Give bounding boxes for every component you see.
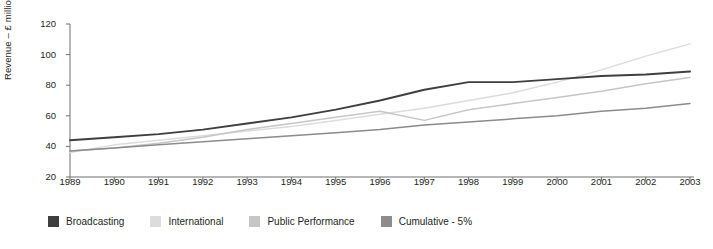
revenue-line-chart: Revenue – £ million 12010080604020 19891… [0, 0, 713, 249]
legend-item[interactable]: Broadcasting [48, 216, 124, 227]
plot-area [0, 0, 713, 249]
legend-item[interactable]: International [150, 216, 223, 227]
chart-legend: BroadcastingInternationalPublic Performa… [48, 216, 498, 227]
legend-swatch-icon [249, 216, 260, 227]
legend-item-label: Cumulative - 5% [399, 216, 472, 227]
legend-item-label: International [168, 216, 223, 227]
legend-item[interactable]: Public Performance [249, 216, 354, 227]
legend-item-label: Broadcasting [66, 216, 124, 227]
legend-item-label: Public Performance [267, 216, 354, 227]
legend-item[interactable]: Cumulative - 5% [381, 216, 472, 227]
legend-swatch-icon [48, 216, 59, 227]
legend-swatch-icon [150, 216, 161, 227]
series-line-international [70, 44, 690, 153]
legend-swatch-icon [381, 216, 392, 227]
